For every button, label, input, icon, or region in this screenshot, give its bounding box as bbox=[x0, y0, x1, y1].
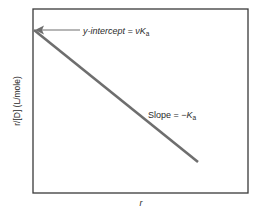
y-axis-label: r/[D] (L/mole) bbox=[12, 76, 22, 126]
x-axis-label: r bbox=[140, 198, 144, 208]
regression-line bbox=[34, 30, 198, 162]
intercept-label: y-intercept = νKa bbox=[82, 26, 150, 37]
slope-label: Slope = −Ka bbox=[148, 110, 197, 121]
plot-frame bbox=[33, 9, 248, 193]
scatchard-diagram: y-intercept = νKa Slope = −Ka r/[D] (L/m… bbox=[0, 0, 263, 214]
intercept-arrow-icon bbox=[35, 26, 80, 35]
